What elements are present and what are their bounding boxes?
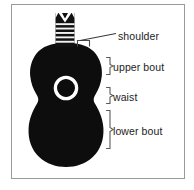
- label-lower-bout: lower bout: [113, 125, 162, 137]
- label-shoulder: shoulder: [118, 30, 159, 42]
- fret-line: [56, 36, 75, 38]
- fret-line: [56, 28, 75, 30]
- shoulder-leader-line: [80, 34, 116, 41]
- fret-line: [56, 41, 75, 43]
- shoulder-annotation: [78, 34, 117, 47]
- sound-hole-center: [57, 79, 74, 96]
- guitar-neck-group: [56, 13, 75, 47]
- fret-line: [56, 32, 75, 34]
- guitar-diagram-artwork: [0, 0, 194, 190]
- label-waist: waist: [113, 91, 137, 103]
- label-upper-bout: upper bout: [113, 61, 164, 73]
- guitar-body-silhouette: [29, 43, 104, 167]
- diagram-figure: shoulder upper bout waist lower bout: [0, 0, 194, 190]
- fret-line: [56, 23, 75, 25]
- guitar-body-group: [29, 43, 104, 167]
